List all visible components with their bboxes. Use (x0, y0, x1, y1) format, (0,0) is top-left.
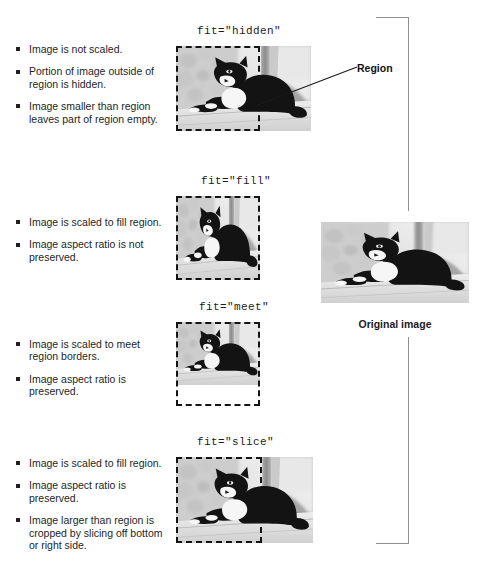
bullet-list-meet: Image is scaled to meet region borders. … (16, 338, 168, 408)
region-box-fill (176, 196, 260, 280)
list-item: Image aspect ratio is preserved. (16, 373, 168, 398)
figure-page: fit="hidden" Image is not scaled. Portio… (0, 0, 494, 574)
bullet-list-hidden: Image is not scaled. Portion of image ou… (16, 43, 168, 135)
bullet-list-slice: Image is scaled to fill region. Image as… (16, 457, 168, 561)
region-callout-line (252, 62, 372, 110)
section-label-meet: fit="meet" (199, 301, 269, 313)
list-item: Portion of image outside of region is hi… (16, 65, 168, 90)
bracket-bottom-arm (376, 543, 409, 544)
list-item: Image is scaled to meet region borders. (16, 338, 168, 363)
region-box-slice (176, 457, 262, 543)
list-item: Image smaller than region leaves part of… (16, 100, 168, 125)
list-item: Image is scaled to fill region. (16, 457, 168, 469)
bracket-stem-upper (408, 17, 409, 211)
original-cat-photo (321, 222, 469, 303)
list-item: Image aspect ratio is preserved. (16, 479, 168, 504)
region-callout-label: Region (357, 62, 393, 74)
section-label-slice: fit="slice" (197, 436, 274, 448)
region-box-hidden (176, 46, 260, 131)
list-item: Image is not scaled. (16, 43, 168, 55)
section-label-fill: fit="fill" (201, 175, 271, 187)
bracket-stem-lower (408, 337, 409, 544)
section-label-hidden: fit="hidden" (197, 25, 281, 37)
original-image-caption: Original image (308, 318, 482, 330)
list-item: Image larger than region is cropped by s… (16, 514, 168, 551)
bullet-list-fill: Image is scaled to fill region. Image as… (16, 216, 168, 273)
region-box-meet (176, 322, 260, 406)
list-item: Image aspect ratio is not preserved. (16, 238, 168, 263)
list-item: Image is scaled to fill region. (16, 216, 168, 228)
bracket-top-arm (376, 17, 409, 18)
